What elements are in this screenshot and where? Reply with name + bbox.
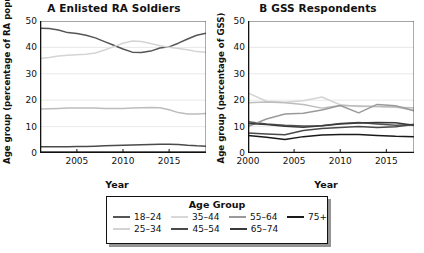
- panel-a-x-axis-label: Year: [0, 179, 214, 190]
- legend-label: 75+: [308, 212, 327, 222]
- y-tick-label: 30: [234, 69, 245, 79]
- x-tick-label: 2010: [112, 156, 135, 166]
- series-line: [40, 41, 206, 58]
- panel-b-title: B GSS Respondents: [214, 2, 424, 14]
- figure-panels: A Enlisted RA Soldiers Age group (percen…: [0, 0, 424, 253]
- series-line: [248, 135, 414, 140]
- legend-label: 35–44: [192, 212, 219, 222]
- x-tick-label: 2005: [283, 156, 306, 166]
- y-tick-label: 20: [26, 95, 37, 105]
- y-tick-label: 20: [234, 95, 245, 105]
- x-tick-label: 2015: [375, 156, 398, 166]
- panel-a-lines: [40, 21, 206, 153]
- legend-item: 75+: [287, 212, 327, 222]
- panel-a-plot-area: 01020304050200520102015: [40, 21, 206, 153]
- panel-a-title: A Enlisted RA Soldiers: [0, 2, 214, 14]
- x-tick-label: 2010: [329, 156, 352, 166]
- legend-item: 65–74: [230, 224, 278, 234]
- legend: Age Group 18–2435–4455–6475+ 25–3445–546…: [106, 196, 328, 244]
- y-tick-label: 30: [26, 69, 37, 79]
- panel-a-y-axis-label: Age group (percentage of RA population): [2, 12, 14, 164]
- panel-b: B GSS Respondents Age group (percentage …: [214, 0, 424, 192]
- panel-b-plot-area: 010203040502000200520102015: [248, 21, 414, 153]
- legend-label: 65–74: [251, 224, 278, 234]
- y-tick-label: 50: [26, 16, 37, 26]
- legend-row-1: 18–2435–4455–6475+: [107, 212, 327, 222]
- legend-label: 25–34: [134, 224, 161, 234]
- legend-label: 45–54: [192, 224, 219, 234]
- legend-item: 25–34: [113, 224, 161, 234]
- legend-title: Age Group: [107, 199, 327, 210]
- legend-swatch-line-icon: [230, 228, 247, 230]
- y-tick-label: 40: [26, 42, 37, 52]
- legend-swatch-line-icon: [113, 216, 130, 218]
- y-tick-label: 40: [234, 42, 245, 52]
- legend-swatch-line-icon: [229, 216, 246, 218]
- legend-swatch-line-icon: [171, 228, 188, 230]
- y-tick-label: 0: [31, 148, 37, 158]
- series-line: [248, 124, 414, 134]
- y-tick-label: 50: [234, 16, 245, 26]
- panel-b-x-axis-label: Year: [214, 179, 424, 190]
- panel-b-y-axis-label: Age group (percentage of GSS): [216, 12, 228, 164]
- y-tick-label: 10: [26, 122, 37, 132]
- x-tick-label: 2015: [158, 156, 181, 166]
- legend-swatch-line-icon: [287, 216, 304, 218]
- x-tick-label: 2000: [237, 156, 260, 166]
- legend-item: 45–54: [171, 224, 219, 234]
- legend-label: 55–64: [250, 212, 277, 222]
- legend-row-2: 25–3445–5465–74: [107, 224, 327, 234]
- series-line: [40, 108, 206, 114]
- legend-label: 18–24: [134, 212, 161, 222]
- legend-item: 18–24: [113, 212, 161, 222]
- panel-b-lines: [248, 21, 414, 153]
- series-line: [40, 144, 206, 146]
- x-tick-label: 2005: [65, 156, 88, 166]
- legend-swatch-line-icon: [113, 228, 130, 230]
- legend-swatch-line-icon: [171, 216, 188, 218]
- y-tick-label: 10: [234, 122, 245, 132]
- legend-item: 35–44: [171, 212, 219, 222]
- panel-a: A Enlisted RA Soldiers Age group (percen…: [0, 0, 214, 192]
- legend-item: 55–64: [229, 212, 277, 222]
